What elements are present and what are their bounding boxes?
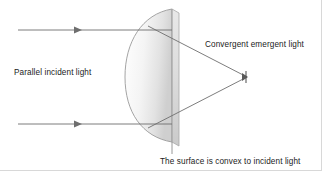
- lower-incident-ray-arrowhead: [74, 121, 82, 128]
- parallel-incident-light-label: Parallel incident light: [14, 68, 91, 77]
- upper-incident-ray-arrowhead: [74, 27, 82, 34]
- surface-convex-caption-label: The surface is convex to incident light: [160, 157, 300, 166]
- lens-convex-body: [125, 9, 172, 142]
- convergent-emergent-light-label: Convergent emergent light: [205, 40, 304, 49]
- optics-diagram-canvas: Parallel incident light Convergent emerg…: [0, 0, 322, 171]
- ray-diagram-svg: [0, 0, 322, 171]
- frame-bottom-edge: [0, 170, 322, 171]
- focal-point-arrowhead: [242, 73, 248, 81]
- lens-flat-face: [172, 9, 179, 146]
